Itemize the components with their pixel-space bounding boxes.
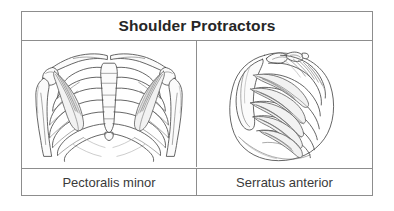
- muscle-label-pectoralis-minor: Pectoralis minor: [62, 176, 155, 189]
- page-title: Shoulder Protractors: [118, 18, 275, 34]
- label-cell-pectoralis-minor: Pectoralis minor: [22, 169, 197, 196]
- sternum-group: [101, 63, 118, 140]
- muscle-label-serratus-anterior: Serratus anterior: [236, 176, 333, 189]
- table-figure-row: [22, 41, 372, 167]
- label-cell-serratus-anterior: Serratus anterior: [197, 169, 372, 196]
- acromion-coracoid-group: [266, 52, 308, 64]
- lateral-thorax-serratus-anterior-illustration: [197, 41, 372, 167]
- table-header-row: Shoulder Protractors: [22, 12, 372, 41]
- shoulder-protractors-table: Shoulder Protractors: [21, 11, 373, 196]
- page-root: Shoulder Protractors: [0, 0, 394, 211]
- table-label-row: Pectoralis minor Serratus anterior: [22, 168, 372, 196]
- figure-cell-pectoralis-minor: [22, 41, 197, 167]
- figure-cell-serratus-anterior: [197, 41, 372, 167]
- anterior-thorax-pectoralis-minor-illustration: [22, 41, 196, 167]
